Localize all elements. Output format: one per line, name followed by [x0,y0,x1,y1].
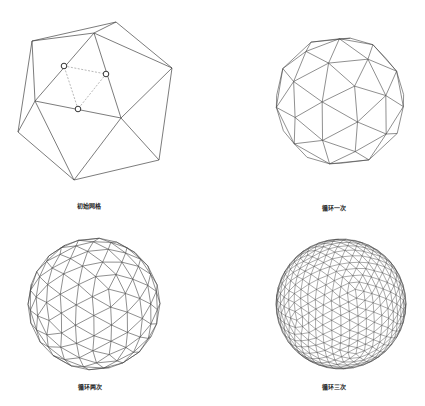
caption-loop-twice: 循环两次 [78,382,102,391]
loop-twice-sphere [28,238,160,370]
loop-once-sphere [276,38,403,164]
edge-midpoint-marker [75,106,81,112]
caption-loop-once: 循环一次 [322,203,346,212]
caption-loop-thrice: 循环三次 [322,382,346,391]
caption-initial-mesh: 初始网格 [77,201,101,210]
edge-midpoint-marker [61,63,67,69]
edge-midpoint-marker [103,71,109,77]
subdivision-figure [0,0,425,406]
initial-mesh-diagram [18,22,172,180]
loop-thrice-sphere [276,239,406,369]
